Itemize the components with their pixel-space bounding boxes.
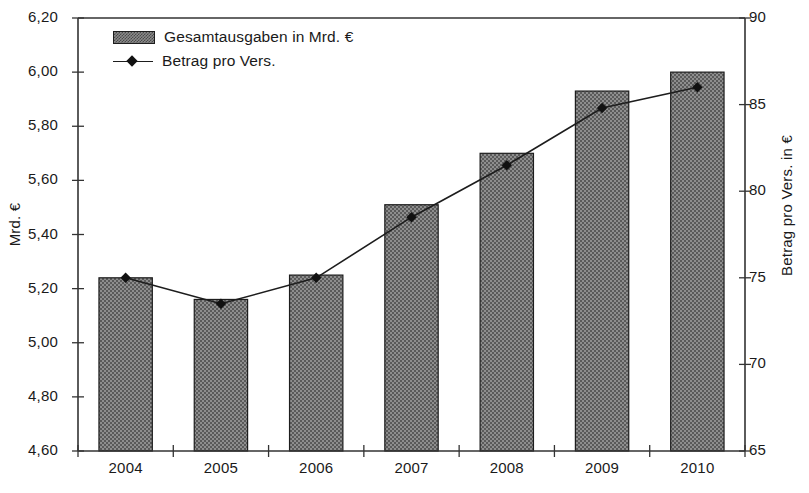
bar-2007 xyxy=(385,205,438,451)
bar-2006 xyxy=(290,275,343,451)
chart-figure: Mrd. € Betrag pro Vers. in € 6,206,005,8… xyxy=(0,0,809,493)
bar-swatch-icon xyxy=(113,31,155,44)
bar-2009 xyxy=(575,91,628,451)
bar-2005 xyxy=(194,299,247,451)
bar-2010 xyxy=(671,72,724,451)
bar-2008 xyxy=(480,153,533,451)
legend-label-gesamtausgaben: Gesamtausgaben in Mrd. € xyxy=(164,28,353,46)
chart-legend: Gesamtausgaben in Mrd. € Betrag pro Vers… xyxy=(113,26,353,74)
legend-item-betrag-pro-vers: Betrag pro Vers. xyxy=(113,50,353,72)
legend-item-gesamtausgaben: Gesamtausgaben in Mrd. € xyxy=(113,26,353,48)
line-diamond-marker-icon xyxy=(113,56,153,67)
legend-label-betrag-pro-vers: Betrag pro Vers. xyxy=(162,52,276,70)
bar-series xyxy=(99,72,724,451)
bar-2004 xyxy=(99,278,152,451)
